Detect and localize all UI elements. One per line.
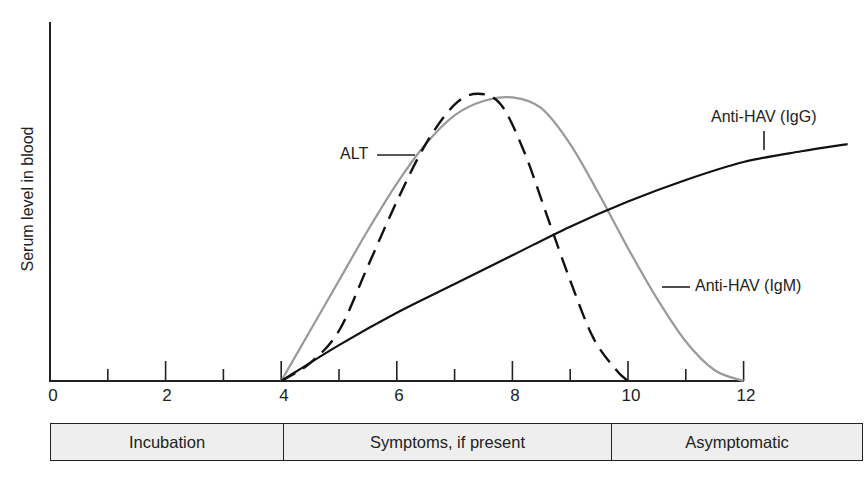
x-axis-ticks — [108, 361, 744, 381]
x-tick-label-4: 4 — [279, 386, 288, 406]
phase-asymptomatic: Asymptomatic — [612, 424, 862, 460]
y-axis-label: Serum level in blood — [19, 109, 37, 289]
x-tick-label-2: 2 — [162, 386, 171, 406]
x-tick-label-10: 10 — [622, 386, 641, 406]
igg-curve-label: Anti-HAV (IgG) — [711, 108, 817, 126]
phase-incubation: Incubation — [51, 424, 284, 460]
curves — [281, 94, 847, 381]
igm-curve-label: Anti-HAV (IgM) — [695, 277, 801, 295]
alt-curve — [281, 94, 628, 381]
x-tick-label-8: 8 — [510, 386, 519, 406]
label-leaders — [377, 131, 764, 287]
x-tick-label-6: 6 — [394, 386, 403, 406]
x-tick-label-0: 0 — [48, 386, 57, 406]
chart-plot-area — [0, 0, 866, 484]
phase-timeline: Incubation Symptoms, if present Asymptom… — [50, 423, 863, 461]
x-tick-label-12: 12 — [737, 386, 756, 406]
phase-symptoms: Symptoms, if present — [284, 424, 612, 460]
alt-curve-label: ALT — [340, 145, 368, 163]
